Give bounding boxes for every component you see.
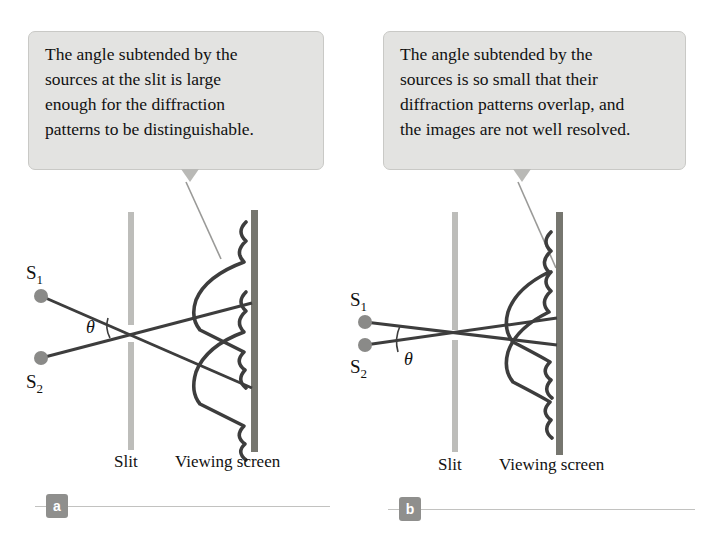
- angle-label-a: θ: [86, 317, 95, 337]
- callout-b-line-1: The angle subtended by the: [400, 42, 671, 67]
- source-label-s1-a: S1: [26, 262, 43, 287]
- slit-label-b: Slit: [438, 455, 462, 475]
- source-dot-s1-b: [358, 315, 372, 329]
- slit-bar-upper-a: [128, 212, 134, 325]
- source-label-s2-a: S2: [26, 371, 43, 396]
- screen-label-b: Viewing screen: [499, 455, 604, 475]
- callout-box-b: The angle subtended by the sources is so…: [383, 31, 686, 170]
- figure-container: The angle subtended by the sources at th…: [0, 0, 721, 555]
- slit-bar-lower-a: [128, 342, 134, 450]
- source-label-s2-b: S2: [350, 356, 367, 381]
- source-dot-s2-a: [34, 351, 48, 365]
- slit-bar-upper-b: [452, 212, 458, 330]
- panel-rule-a: [35, 506, 330, 507]
- callout-a-leader-line: [186, 182, 221, 259]
- panel-badge-b: b: [399, 497, 421, 521]
- screen-label-a: Viewing screen: [175, 452, 280, 472]
- callout-b-line-3: diffraction patterns overlap, and: [400, 92, 671, 117]
- panel-rule-b: [388, 509, 695, 510]
- callout-b-leader-line: [518, 182, 556, 268]
- callout-b-tail: [513, 169, 531, 182]
- viewing-screen-b: [556, 212, 563, 455]
- panel-badge-a: a: [46, 494, 68, 518]
- callout-b-line-2: sources is so small that their: [400, 67, 671, 92]
- angle-arc-a: [107, 318, 110, 338]
- diffraction-pattern-lower-b: [506, 272, 552, 438]
- slit-bar-lower-b: [452, 340, 458, 452]
- source-dot-s2-b: [358, 338, 372, 352]
- source-dot-s1-a: [34, 289, 48, 303]
- viewing-screen-a: [251, 210, 258, 452]
- callout-b-line-4: the images are not well resolved.: [400, 117, 671, 142]
- source-label-s1-b: S1: [350, 289, 367, 314]
- angle-label-b: θ: [404, 349, 413, 369]
- slit-label-a: Slit: [114, 452, 138, 472]
